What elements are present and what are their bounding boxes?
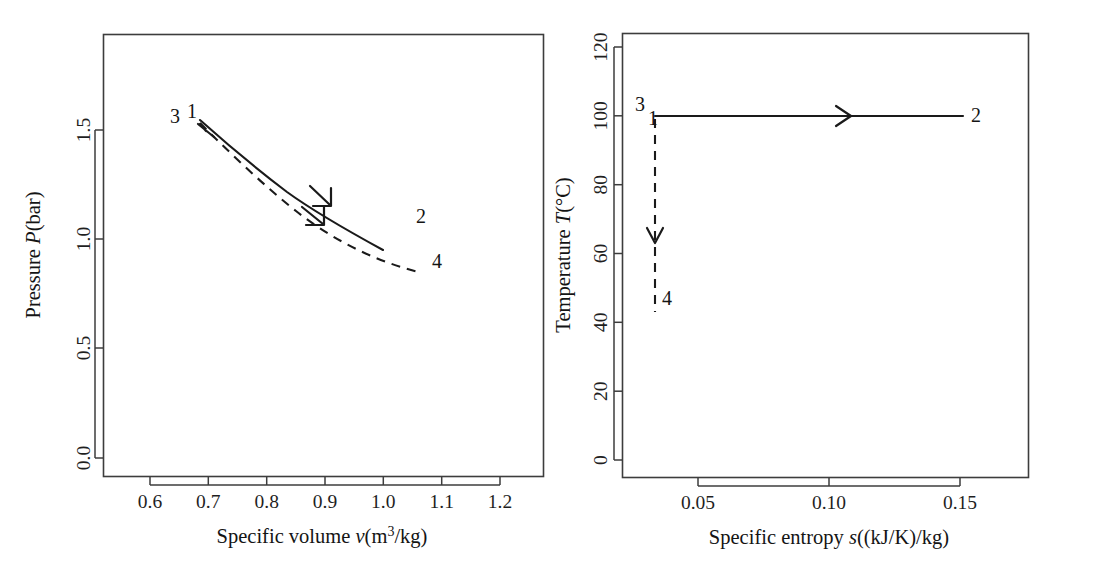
y-axis-pv: 1.5 1.0 0.5 0.0 (73, 118, 103, 470)
point-label-pv-4: 4 (432, 250, 442, 272)
point-label-ts-3: 3 (635, 93, 645, 115)
x-axis-title-pv-units-post: /kg) (394, 525, 427, 548)
point-label-ts-2: 2 (971, 104, 981, 126)
y-axis-title-ts-units: (°C) (552, 177, 575, 213)
chart-pressure-volume: 1.5 1.0 0.5 0.0 Pressure P(bar) 0.6 0.7 … (0, 0, 548, 584)
y-axis-title-ts-lead: Temperature (552, 224, 575, 332)
chart-temperature-entropy: 120 100 80 60 40 20 0 Temperature T(°C) … (548, 0, 1096, 584)
y-ticklabel-ts-1: 20 (590, 381, 611, 401)
y-ticklabel-pv-3: 1.5 (73, 118, 94, 142)
y-ticklabel-ts-5: 100 (590, 101, 611, 130)
x-ticklabel-pv-2: 0.8 (255, 491, 279, 512)
x-axis-title-pv-units-pre: (m (365, 525, 388, 548)
x-axis-ts: 0.05 0.10 0.15 (681, 478, 977, 513)
x-ticklabel-ts-2: 0.15 (943, 492, 977, 513)
y-ticklabel-pv-2: 1.0 (73, 227, 94, 251)
x-ticklabel-pv-0: 0.6 (138, 491, 163, 512)
point-label-ts-1: 1 (648, 107, 658, 129)
figure-root: 1.5 1.0 0.5 0.0 Pressure P(bar) 0.6 0.7 … (0, 0, 1096, 584)
x-axis-title-ts-units: ((kJ/K)/kg) (857, 526, 949, 549)
y-axis-title-pv-symbol: P (22, 231, 44, 245)
y-ticklabel-ts-6: 120 (590, 32, 611, 61)
arrowhead-solid-pv (310, 186, 331, 206)
plot-frame-ts (623, 34, 1029, 478)
y-ticklabel-ts-3: 60 (590, 244, 611, 264)
y-axis-title-pv-units: (bar) (22, 192, 45, 232)
y-axis-title-pv: Pressure P(bar) (22, 192, 45, 319)
series-dashed-pv (200, 123, 418, 272)
x-ticklabel-pv-1: 0.7 (196, 491, 221, 512)
x-ticklabel-pv-3: 0.9 (313, 491, 337, 512)
series-solid-pv (200, 120, 383, 250)
x-axis-title-pv: Specific volume v(m3/kg) (217, 524, 428, 548)
x-ticklabel-ts-1: 0.10 (812, 492, 846, 513)
y-axis-title-ts: Temperature T(°C) (552, 177, 575, 332)
y-ticklabel-pv-0: 0.0 (73, 446, 94, 470)
x-ticklabel-pv-6: 1.2 (488, 491, 512, 512)
point-label-pv-2: 2 (416, 205, 426, 227)
y-ticklabel-ts-4: 80 (590, 175, 611, 195)
point-label-pv-3: 3 (170, 105, 180, 127)
x-axis-title-pv-units-exp: 3 (387, 524, 394, 539)
point-label-ts-4: 4 (662, 287, 672, 309)
y-ticklabel-pv-1: 0.5 (73, 336, 94, 360)
x-ticklabel-pv-5: 1.1 (430, 491, 454, 512)
x-axis-title-pv-lead: Specific volume (217, 525, 356, 548)
x-axis-title-ts-symbol: s (849, 526, 857, 548)
x-ticklabel-ts-0: 0.05 (681, 492, 715, 513)
point-label-pv-1: 1 (187, 100, 197, 122)
x-axis-pv: 0.6 0.7 0.8 0.9 1.0 1.1 1.2 (138, 477, 512, 512)
plot-frame-pv (104, 35, 544, 477)
y-ticklabel-ts-2: 40 (590, 313, 611, 333)
y-axis-title-pv-lead: Pressure (22, 244, 44, 319)
y-axis-ts: 120 100 80 60 40 20 0 (590, 32, 622, 465)
x-axis-title-ts: Specific entropy s((kJ/K)/kg) (709, 526, 949, 549)
x-ticklabel-pv-4: 1.0 (371, 491, 395, 512)
x-axis-title-ts-lead: Specific entropy (709, 526, 849, 549)
y-ticklabel-ts-0: 0 (590, 455, 611, 465)
